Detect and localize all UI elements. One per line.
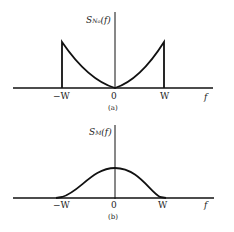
plots-svg	[0, 0, 234, 232]
ylabel-a: SNo(f)	[86, 16, 111, 25]
tick-pos-w-b: W	[158, 201, 167, 210]
tick-neg-w-b: −W	[53, 201, 70, 210]
curve-a	[62, 42, 164, 88]
caption-b: (b)	[108, 214, 118, 221]
caption-a: (a)	[108, 105, 118, 112]
plot-b	[13, 125, 214, 199]
tick-zero-a: 0	[111, 92, 117, 101]
tick-zero-b: 0	[111, 201, 117, 210]
f-label-b: f	[204, 201, 207, 210]
curve-b	[56, 168, 166, 198]
tick-pos-w-a: W	[160, 92, 169, 101]
f-label-a: f	[204, 93, 207, 102]
ylabel-b: SM(f)	[89, 128, 112, 137]
plot-a	[13, 12, 213, 89]
tick-neg-w-a: −W	[53, 92, 70, 101]
figure: SNo(f) −W 0 W f (a) SM(f) −W 0 W f (b)	[0, 0, 234, 232]
